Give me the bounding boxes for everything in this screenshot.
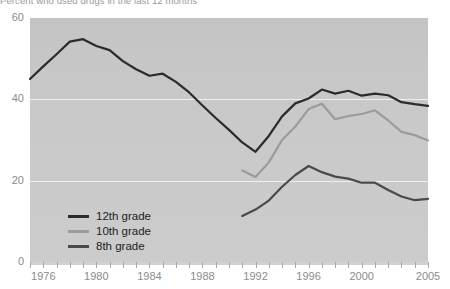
x-axis-tick-1986: [176, 262, 177, 268]
x-axis-tick-1982: [123, 262, 124, 268]
legend-item-12th-grade[interactable]: 12th grade: [68, 209, 151, 224]
y-axis-tick-40: 40: [12, 93, 24, 104]
x-axis-tick-1994: [282, 262, 283, 268]
x-axis-tick-1981: [110, 262, 111, 268]
x-axis-tick-1996: [309, 262, 310, 268]
x-axis-tick-2005: [428, 262, 429, 268]
x-axis-tick-1987: [189, 262, 190, 268]
series-line-12th-grade: [30, 39, 428, 152]
legend-item-label: 8th grade: [96, 240, 145, 253]
x-axis-tick-1976: [43, 262, 44, 268]
chart-legend: 12th grade10th grade8th grade: [68, 209, 151, 254]
x-axis-label-1992: 1992: [243, 270, 267, 282]
series-line-8th-grade: [242, 166, 428, 216]
x-axis-tick-1990: [229, 262, 230, 268]
legend-item-label: 12th grade: [96, 210, 151, 223]
legend-swatch-icon: [68, 230, 89, 233]
x-axis-tick-2000: [362, 262, 363, 268]
x-axis-tick-1977: [57, 262, 58, 268]
x-axis-tick-1992: [256, 262, 257, 268]
x-axis-label-2005: 2005: [416, 270, 440, 282]
legend-swatch-icon: [68, 215, 89, 218]
x-axis-tick-1980: [96, 262, 97, 268]
x-axis-tick-1985: [163, 262, 164, 268]
x-axis-label-1980: 1980: [84, 270, 108, 282]
y-axis-labels: 0204060: [0, 0, 28, 289]
x-axis-tick-1979: [83, 262, 84, 268]
x-axis-label-1988: 1988: [190, 270, 214, 282]
series-line-10th-grade: [242, 104, 428, 177]
x-axis-tick-1997: [322, 262, 323, 268]
y-axis-tick-20: 20: [12, 175, 24, 186]
x-axis-label-1984: 1984: [137, 270, 161, 282]
x-axis-tick-1989: [216, 262, 217, 268]
x-axis-tick-2002: [388, 262, 389, 268]
x-axis-label-2000: 2000: [349, 270, 373, 282]
x-axis-tick-1978: [70, 262, 71, 268]
x-axis-tick-1999: [348, 262, 349, 268]
x-axis-tick-1993: [269, 262, 270, 268]
x-axis-tick-1988: [202, 262, 203, 268]
x-axis-tick-1975: [30, 262, 31, 268]
chart-caption: Percent who used drugs in the last 12 mo…: [0, 0, 450, 7]
x-axis-tick-1995: [295, 262, 296, 268]
y-axis-tick-60: 60: [12, 12, 24, 23]
drug-use-line-chart: Percent who used drugs in the last 12 mo…: [0, 0, 450, 289]
legend-item-label: 10th grade: [96, 225, 151, 238]
plot-area: 12th grade10th grade8th grade: [30, 18, 428, 262]
x-axis-tick-1984: [149, 262, 150, 268]
x-axis-tick-1983: [136, 262, 137, 268]
x-axis-label-1996: 1996: [296, 270, 320, 282]
legend-item-10th-grade[interactable]: 10th grade: [68, 224, 151, 239]
legend-swatch-icon: [68, 245, 89, 248]
x-axis-tick-2003: [401, 262, 402, 268]
y-axis-tick-0: 0: [18, 256, 24, 267]
x-axis-label-1976: 1976: [31, 270, 55, 282]
x-axis-tick-1991: [242, 262, 243, 268]
x-axis-tick-1998: [335, 262, 336, 268]
x-axis-tick-2004: [415, 262, 416, 268]
x-axis-tick-2001: [375, 262, 376, 268]
legend-item-8th-grade[interactable]: 8th grade: [68, 239, 151, 254]
